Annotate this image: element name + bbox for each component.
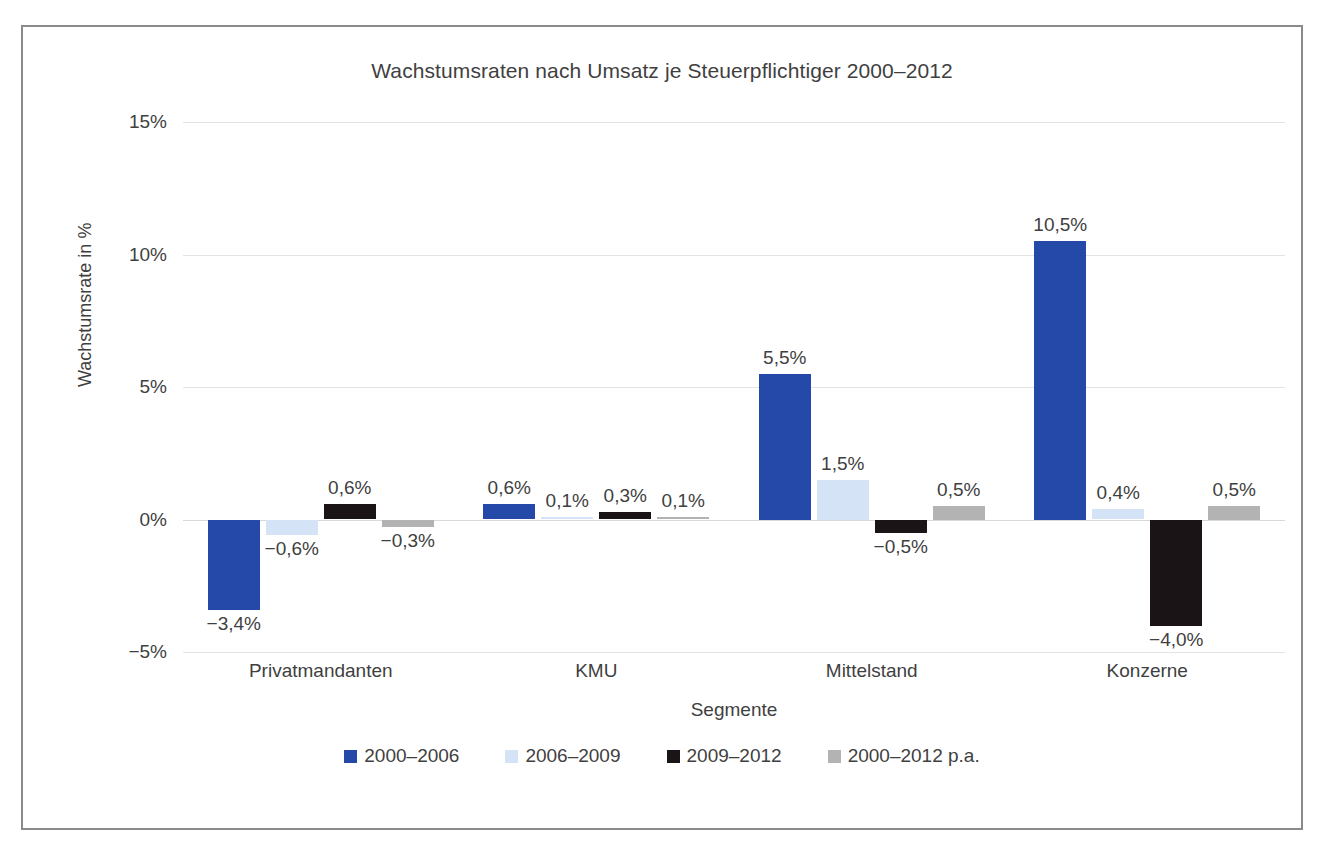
y-axis-tick-label: 15%	[129, 111, 167, 133]
bar-value-label: 0,1%	[662, 490, 705, 512]
bar[interactable]	[657, 517, 709, 520]
bar-value-label: −0,3%	[381, 530, 435, 552]
bar-value-label: −4,0%	[1149, 629, 1203, 651]
figure-frame: Wachstumsraten nach Umsatz je Steuerpfli…	[21, 25, 1303, 830]
bar[interactable]	[541, 517, 593, 520]
x-axis-category-label: Mittelstand	[734, 660, 1010, 682]
legend-swatch-icon	[828, 750, 841, 763]
bar-value-label: 5,5%	[763, 347, 806, 369]
legend-label: 2006–2009	[525, 745, 620, 767]
bar[interactable]	[875, 520, 927, 533]
bar[interactable]	[599, 512, 651, 520]
x-axis-category-label: Konzerne	[1010, 660, 1286, 682]
bar-value-label: −3,4%	[207, 613, 261, 635]
y-axis-tick-label: 5%	[140, 376, 167, 398]
bar[interactable]	[933, 506, 985, 519]
category-group-3: 5,5%1,5%−0,5%0,5%Mittelstand	[734, 122, 1010, 652]
bar-value-label: 0,5%	[1213, 479, 1256, 501]
bar-value-label: 1,5%	[821, 453, 864, 475]
bar[interactable]	[208, 520, 260, 610]
legend-item-2[interactable]: 2006–2009	[505, 745, 620, 767]
bar-value-label: 0,6%	[488, 477, 531, 499]
legend-label: 2000–2006	[364, 745, 459, 767]
legend-swatch-icon	[667, 750, 680, 763]
bar-value-label: 0,1%	[546, 490, 589, 512]
bar[interactable]	[817, 480, 869, 520]
bar[interactable]	[759, 374, 811, 520]
bar[interactable]	[382, 520, 434, 528]
bar-chart: Wachstumsraten nach Umsatz je Steuerpfli…	[23, 27, 1301, 828]
legend-swatch-icon	[344, 750, 357, 763]
bar[interactable]	[1034, 241, 1086, 519]
chart-legend: 2000–20062006–20092009–20122000–2012 p.a…	[23, 745, 1301, 767]
x-axis-title: Segmente	[183, 699, 1285, 721]
legend-swatch-icon	[505, 750, 518, 763]
x-axis-category-label: Privatmandanten	[183, 660, 459, 682]
category-group-4: 10,5%0,4%−4,0%0,5%Konzerne	[1010, 122, 1286, 652]
bar[interactable]	[324, 504, 376, 520]
bar[interactable]	[1092, 509, 1144, 520]
legend-item-3[interactable]: 2009–2012	[667, 745, 782, 767]
category-group-2: 0,6%0,1%0,3%0,1%KMU	[459, 122, 735, 652]
category-group-1: −3,4%−0,6%0,6%−0,3%Privatmandanten	[183, 122, 459, 652]
bar-value-label: 0,5%	[937, 479, 980, 501]
chart-title: Wachstumsraten nach Umsatz je Steuerpfli…	[23, 59, 1301, 83]
legend-label: 2000–2012 p.a.	[848, 745, 980, 767]
gridline--5	[183, 652, 1285, 653]
bar[interactable]	[483, 504, 535, 520]
bar-value-label: −0,6%	[265, 538, 319, 560]
plot-area: 15%10%5%0%−5%−3,4%−0,6%0,6%−0,3%Privatma…	[183, 122, 1285, 652]
bar-value-label: 0,6%	[328, 477, 371, 499]
legend-item-1[interactable]: 2000–2006	[344, 745, 459, 767]
legend-item-4[interactable]: 2000–2012 p.a.	[828, 745, 980, 767]
bar[interactable]	[266, 520, 318, 536]
bar[interactable]	[1150, 520, 1202, 626]
x-axis-category-label: KMU	[459, 660, 735, 682]
bar[interactable]	[1208, 506, 1260, 519]
bar-value-label: 0,4%	[1097, 482, 1140, 504]
bar-value-label: 10,5%	[1033, 214, 1087, 236]
legend-label: 2009–2012	[687, 745, 782, 767]
y-axis-tick-label: 10%	[129, 244, 167, 266]
bar-value-label: −0,5%	[874, 536, 928, 558]
y-axis-tick-label: 0%	[140, 509, 167, 531]
y-axis-tick-label: −5%	[128, 641, 167, 663]
bar-value-label: 0,3%	[604, 485, 647, 507]
y-axis-title: Wachstumsrate in %	[75, 223, 96, 387]
